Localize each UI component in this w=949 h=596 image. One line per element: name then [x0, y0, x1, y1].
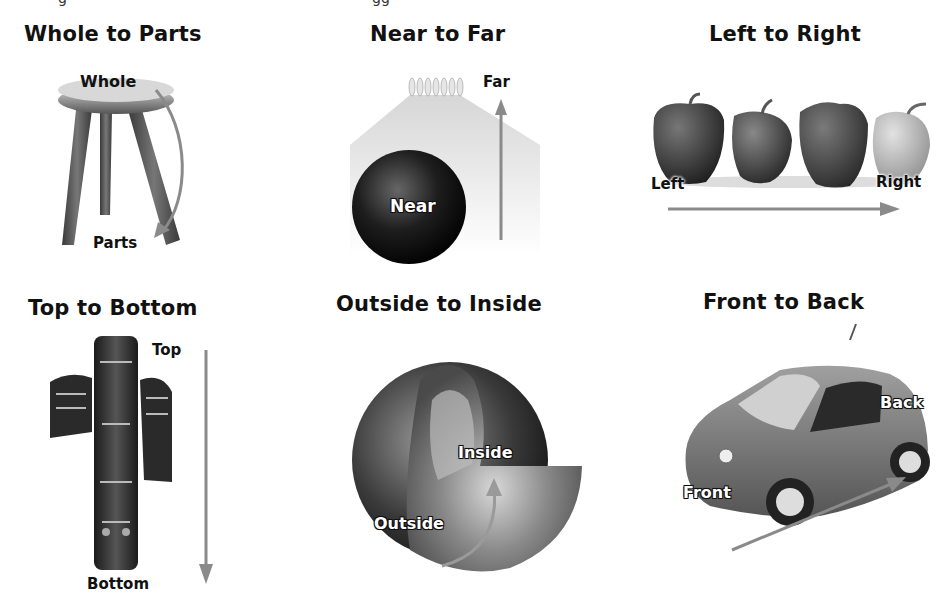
end-label: Back [880, 393, 923, 412]
cropped-text-fragment: gg [372, 0, 390, 6]
stool-image [40, 60, 240, 260]
panel-title: Near to Far [370, 22, 505, 46]
start-label: Outside [374, 514, 444, 533]
end-label: Bottom [87, 575, 149, 593]
panel-title: Top to Bottom [28, 296, 198, 320]
end-label: Inside [458, 443, 513, 462]
peppers-image [640, 90, 930, 230]
start-label: Top [152, 341, 181, 359]
panel-title: Outside to Inside [336, 292, 542, 316]
start-label: Near [390, 196, 436, 216]
panel-title: Front to Back [703, 290, 864, 314]
bowling-image [350, 55, 550, 265]
panel-title: Left to Right [709, 22, 861, 46]
end-label: Parts [93, 234, 137, 252]
end-label: Far [483, 73, 510, 91]
end-label: Right [876, 173, 921, 191]
car-image [670, 330, 940, 560]
totem-pole-image [40, 332, 260, 592]
panel-title: Whole to Parts [24, 22, 202, 46]
start-label: Whole [80, 72, 136, 91]
start-label: Front [683, 483, 731, 502]
cropped-text-fragment: g [58, 0, 67, 6]
start-label: Left [651, 175, 684, 193]
